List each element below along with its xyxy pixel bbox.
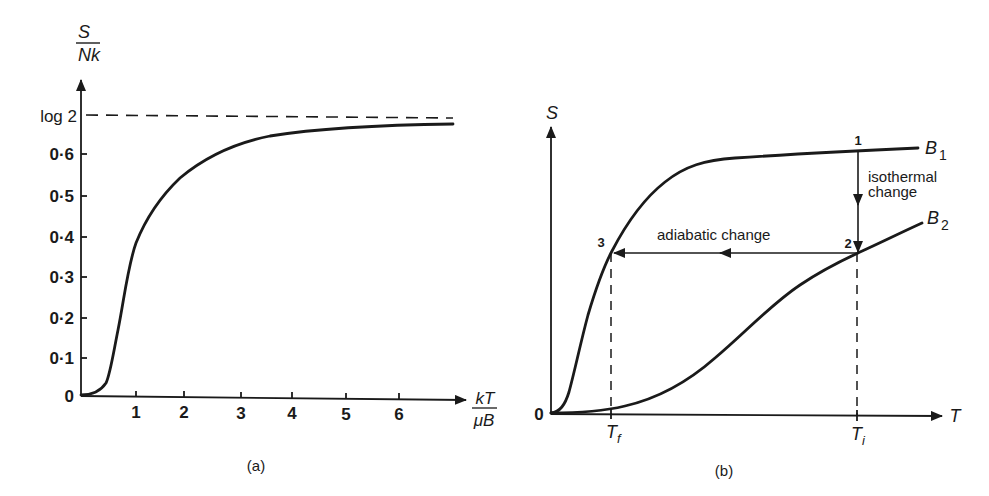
point-3-label: 3	[597, 235, 604, 250]
curve-b1-label: B1	[925, 138, 947, 163]
x-tick-6: 6	[394, 405, 403, 424]
asymptote-log2-line	[86, 115, 453, 118]
y-tick-0-6: 0·6	[49, 145, 74, 164]
x-tick-2: 2	[179, 403, 188, 422]
panel-b-origin-label: 0	[534, 405, 543, 424]
panel-b: S T 0 Tf Ti B1 B2 1 2	[534, 103, 962, 479]
x-tick-3: 3	[236, 404, 245, 423]
panel-a-caption: (a)	[247, 457, 265, 474]
x-tick-1: 1	[131, 403, 140, 422]
y-tick-0: 0	[65, 387, 74, 406]
x-tick-5: 5	[341, 405, 350, 424]
ti-label: Ti	[851, 424, 866, 448]
point-2-label: 2	[844, 236, 851, 251]
panel-a-y-label-denominator: Nk	[78, 45, 101, 65]
panel-a-entropy-curve	[81, 124, 453, 395]
panel-b-caption: (b)	[715, 462, 733, 479]
isothermal-label-line2: change	[868, 183, 917, 200]
panel-b-y-label: S	[546, 103, 558, 123]
curve-b2	[551, 223, 922, 413]
tf-label: Tf	[606, 422, 622, 446]
panel-a: S Nk 0 0·1 0·2 0·3 0·4 0·5 0·6 log 2	[40, 22, 497, 474]
y-tick-0-2: 0·2	[49, 309, 74, 328]
figure-canvas: S Nk 0 0·1 0·2 0·3 0·4 0·5 0·6 log 2	[0, 0, 989, 496]
point-1-label: 1	[854, 133, 861, 148]
curve-b1	[551, 148, 918, 413]
y-tick-0-5: 0·5	[49, 187, 74, 206]
panel-a-y-ticks: 0 0·1 0·2 0·3 0·4 0·5 0·6 log 2	[40, 107, 87, 406]
panel-b-x-axis	[551, 414, 942, 416]
curve-b2-label: B2	[927, 208, 949, 233]
panel-a-x-ticks: 1 2 3 4 5 6	[131, 391, 403, 424]
panel-a-x-label-denominator: μB	[473, 411, 495, 430]
panel-b-x-label: T	[950, 406, 963, 426]
adiabatic-label: adiabatic change	[657, 226, 770, 243]
panel-a-x-axis	[81, 396, 466, 400]
panel-a-y-label-numerator: S	[78, 22, 90, 42]
y-tick-0-1: 0·1	[49, 349, 74, 368]
y-tick-0-4: 0·4	[49, 228, 74, 247]
y-tick-log2: log 2	[40, 107, 77, 126]
panel-a-x-label-numerator: kT	[476, 389, 497, 408]
x-tick-4: 4	[287, 404, 297, 423]
y-tick-0-3: 0·3	[49, 268, 74, 287]
